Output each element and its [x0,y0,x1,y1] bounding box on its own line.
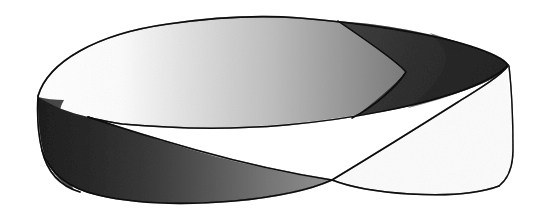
mobius-strip-figure [0,0,547,219]
mobius-strip-drawing [0,0,547,219]
